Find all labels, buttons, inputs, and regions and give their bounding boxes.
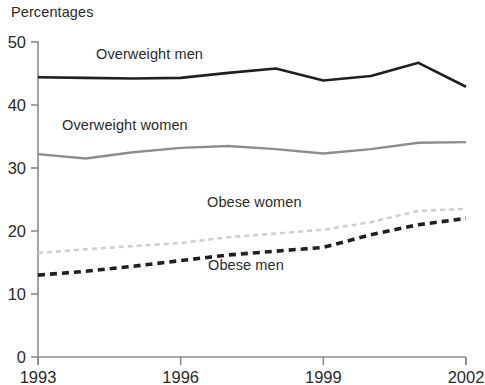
series-label-obese-women: Obese women [207,194,302,210]
x-axis: 1993199619992002 [20,357,485,385]
series-line-obese-women [38,209,466,253]
x-tick-label: 1993 [20,368,57,385]
line-chart-plot: 01020304050 1993199619992002 [0,0,485,385]
series-line-overweight-women [38,142,466,158]
x-tick-label: 1999 [305,368,342,385]
y-tick-label: 50 [8,33,26,51]
series-line-overweight-men [38,63,466,87]
y-tick-label: 30 [8,159,26,177]
y-tick-label: 10 [8,285,26,303]
y-axis: 01020304050 [8,33,38,366]
y-tick-label: 0 [17,348,26,366]
chart-container: Percentages 01020304050 1993199619992002… [0,0,485,385]
y-tick-label: 40 [8,96,26,114]
y-tick-label: 20 [8,222,26,240]
series-label-overweight-women: Overweight women [62,117,188,133]
x-tick-label: 2002 [448,368,485,385]
data-series-group [38,63,466,275]
series-label-obese-men: Obese men [208,257,284,273]
x-tick-label: 1996 [162,368,199,385]
series-label-overweight-men: Overweight men [96,46,203,62]
